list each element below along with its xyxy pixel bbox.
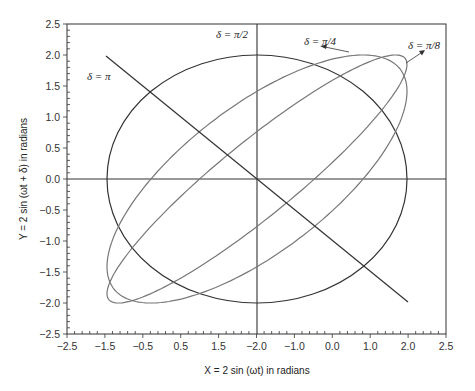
x-tick-label: 1.5 [211, 340, 226, 352]
x-tick-label: 0.0 [325, 340, 340, 352]
lissajous-chart: δ = π/2 δ = π δ = π/4 δ = π/8 2.52.01.51… [0, 0, 475, 391]
x-tick-label: 0.5 [173, 340, 188, 352]
x-tick-labels: −2.5−1.5−0.50.51.5−2.0−1.00.01.02.02.5 [57, 340, 454, 352]
x-axis-title: X = 2 sin (ωt) in radians [204, 365, 309, 376]
y-tick-label: −0.5 [39, 204, 60, 216]
annotation-delta-pi: δ = π [87, 70, 111, 82]
annotation-delta-pi-2: δ = π/2 [216, 28, 249, 40]
x-tick-label: −1.5 [95, 340, 116, 352]
y-tick-label: −2.0 [39, 297, 60, 309]
x-tick-label: −1.0 [284, 340, 305, 352]
annotation-delta-pi-8: δ = π/8 [408, 39, 441, 51]
y-tick-labels: 2.52.01.51.00.50.0−0.5−1.0−1.5−2.0−2.5 [39, 18, 60, 340]
annotation-arrow-pi-8 [406, 50, 425, 63]
y-tick-label: 1.0 [45, 111, 60, 123]
y-tick-label: 2.0 [45, 49, 60, 61]
x-tick-label: 2.0 [401, 340, 416, 352]
x-tick-label: −2.5 [57, 340, 78, 352]
y-tick-label: 2.5 [45, 18, 60, 30]
y-tick-label: −1.0 [39, 235, 60, 247]
y-tick-label: 0.5 [45, 142, 60, 154]
y-tick-label: 0.0 [45, 173, 60, 185]
x-tick-label: 2.5 [439, 340, 454, 352]
x-tick-label: 1.0 [363, 340, 378, 352]
annotation-delta-pi-4: δ = π/4 [304, 35, 337, 47]
y-tick-label: −1.5 [39, 266, 60, 278]
x-tick-label: −0.5 [132, 340, 153, 352]
y-tick-label: 1.5 [45, 80, 60, 92]
x-tick-label: −2.0 [246, 340, 267, 352]
y-tick-label: −2.5 [39, 328, 60, 340]
y-axis-title: Y = 2 sin (ωt + δ) in radians [18, 118, 29, 240]
